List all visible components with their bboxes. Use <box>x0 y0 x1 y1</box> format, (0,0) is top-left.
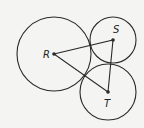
triangle-rst <box>54 40 113 92</box>
tangent-circles-diagram: R S T <box>0 0 144 128</box>
center-point-r <box>52 52 56 56</box>
center-point-s <box>111 38 115 42</box>
label-t: T <box>104 98 111 109</box>
label-r: R <box>43 49 50 60</box>
label-s: S <box>113 24 120 35</box>
center-point-t <box>106 90 110 94</box>
